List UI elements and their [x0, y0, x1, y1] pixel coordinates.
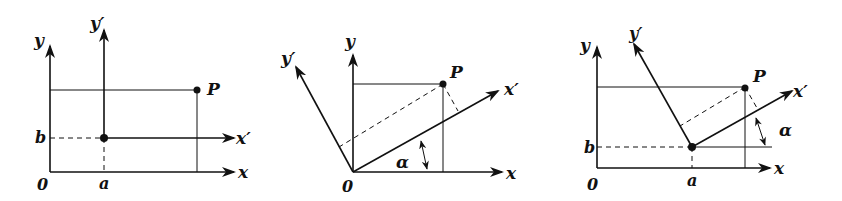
- coordinate-transform-figure: y y′ x x′ 0 a b P y y′ x x′ 0 α P: [0, 0, 842, 201]
- point-p: [440, 81, 447, 88]
- label-alpha: α: [779, 120, 792, 140]
- label-x-prime: x′: [235, 128, 251, 148]
- label-origin: 0: [37, 175, 48, 194]
- label-p: P: [206, 79, 221, 99]
- new-origin-point: [688, 143, 696, 151]
- x-prime-axis: [692, 91, 792, 147]
- p-dashed-to-y-prime: [680, 87, 745, 126]
- label-y-prime: y′: [280, 48, 296, 68]
- point-p: [194, 87, 201, 94]
- label-alpha: α: [396, 152, 409, 172]
- panel-translation: y y′ x x′ 0 a b P: [33, 13, 251, 194]
- point-p: [742, 85, 749, 92]
- label-y: y: [579, 35, 591, 55]
- label-p: P: [752, 66, 767, 86]
- label-x-prime: x′: [792, 81, 808, 101]
- label-a: a: [99, 174, 109, 193]
- label-x: x: [505, 163, 517, 183]
- y-prime-axis: [634, 44, 692, 147]
- label-y: y: [344, 31, 356, 51]
- label-x-prime: x′: [503, 79, 519, 99]
- label-p: P: [449, 62, 464, 82]
- label-origin: 0: [342, 177, 353, 196]
- label-x: x: [773, 158, 785, 178]
- label-y: y: [33, 30, 45, 50]
- label-b: b: [584, 138, 595, 157]
- label-a: a: [687, 171, 697, 190]
- angle-alpha-arrow: [421, 141, 427, 169]
- label-origin: 0: [587, 175, 598, 194]
- angle-alpha-arrow: [756, 118, 765, 145]
- panel-rotation: y y′ x x′ 0 α P: [280, 31, 519, 196]
- label-x: x: [237, 162, 249, 182]
- new-origin-point: [100, 134, 108, 142]
- p-dashed-to-y-prime: [339, 84, 443, 147]
- label-y-prime: y′: [89, 13, 105, 33]
- panel-translation-rotation: y y′ x x′ 0 a b α P: [579, 24, 808, 194]
- label-y-prime: y′: [628, 24, 643, 43]
- y-prime-axis: [296, 67, 353, 172]
- p-dashed-to-x-prime: [443, 84, 458, 111]
- label-b: b: [35, 128, 46, 147]
